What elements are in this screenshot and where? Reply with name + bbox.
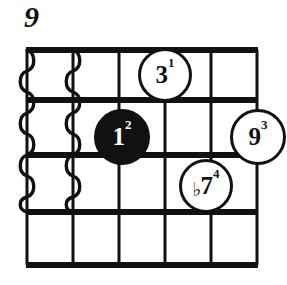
marker-root-label: 12	[113, 124, 132, 149]
marker-flat-seventh-degree: 7	[200, 172, 213, 199]
marker-third-label: 31	[156, 62, 175, 87]
marker-flat-seventh-accidental: ♭	[193, 179, 202, 200]
marker-third-degree: 3	[156, 61, 169, 88]
marker-flat-seventh-label: ♭74	[193, 173, 220, 198]
marker-root-degree: 1	[113, 123, 126, 150]
chord-diagram: 9 311293♭74	[0, 0, 287, 285]
marker-third[interactable]: 31	[138, 48, 192, 102]
marker-third-finger: 1	[168, 55, 175, 70]
muted-string-squiggles	[20, 50, 80, 212]
marker-flat-seventh[interactable]: ♭74	[179, 159, 233, 213]
marker-ninth[interactable]: 93	[230, 109, 286, 165]
marker-root[interactable]: 12	[94, 109, 150, 165]
marker-ninth-degree: 9	[249, 123, 262, 150]
marker-ninth-finger: 3	[261, 117, 268, 132]
marker-root-finger: 2	[125, 117, 132, 132]
marker-flat-seventh-finger: 4	[213, 166, 220, 181]
marker-ninth-label: 93	[249, 124, 268, 149]
